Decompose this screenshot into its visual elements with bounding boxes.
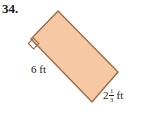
- fraction-numerator: 1: [109, 88, 113, 95]
- label-short-side: 2 1 3 ft: [103, 88, 123, 103]
- mixed-number-whole: 2: [103, 90, 109, 101]
- mixed-number: 2 1 3: [103, 88, 115, 103]
- rectangle-figure: [0, 0, 160, 117]
- fraction-denominator: 3: [109, 97, 113, 104]
- unit-label: ft: [117, 90, 124, 101]
- figure-container: 34. 6 ft 2 1 3 ft: [0, 0, 160, 117]
- label-long-side: 6 ft: [31, 64, 46, 75]
- fraction: 1 3: [109, 88, 114, 103]
